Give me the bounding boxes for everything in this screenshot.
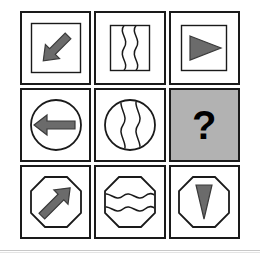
circle-frame-vertical-waves-icon [99,94,161,156]
matrix-cell-5[interactable] [94,88,165,162]
matrix-cell-8[interactable] [94,165,165,239]
matrix-cell-1[interactable] [20,11,91,85]
matrix-cell-6-missing[interactable]: ? [169,88,240,162]
matrix-cell-3[interactable] [169,11,240,85]
page-divider-rule [0,250,260,251]
square-frame-arrow-down-left-icon [27,19,85,77]
matrix-cell-9[interactable] [169,165,240,239]
matrix-cell-7[interactable] [20,165,91,239]
square-frame-vertical-waves-icon [101,19,159,77]
page-divider-rule-secondary [0,252,260,253]
octagon-frame-arrow-up-left-icon [25,171,87,233]
ravens-matrix-grid: ? [20,11,240,239]
matrix-cell-2[interactable] [94,11,165,85]
question-mark-label: ? [192,105,216,145]
matrix-cell-4[interactable] [20,88,91,162]
octagon-frame-horizontal-waves-icon [99,171,161,233]
square-frame-triangle-right-icon [175,19,233,77]
circle-frame-arrow-left-icon [25,94,87,156]
octagon-frame-triangle-down-icon [173,171,235,233]
